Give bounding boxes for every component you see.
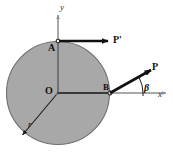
force-p-label: P [152, 62, 158, 72]
radius-label: r [28, 120, 32, 129]
point-o-label: O [45, 86, 53, 96]
angle-beta-arc [139, 78, 143, 93]
point-b-label: B [103, 83, 109, 92]
y-axis-label: y [60, 3, 64, 12]
x-axis-label: x [158, 90, 162, 99]
angle-beta-label: β [144, 83, 149, 93]
figure-container: y x A O B P' P β r [0, 0, 173, 168]
force-p-prime-label: P' [113, 35, 122, 45]
point-a-label: A [48, 43, 55, 53]
